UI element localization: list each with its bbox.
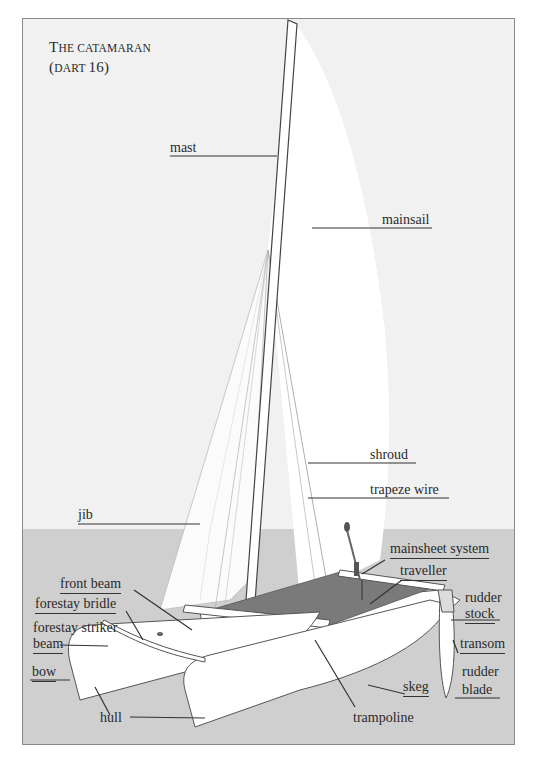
rudder-blade-shape xyxy=(439,598,454,698)
label-rudder-stock-line-2: stock xyxy=(465,606,495,624)
label-trampoline: trampoline xyxy=(353,710,414,726)
label-beam: beam xyxy=(33,636,63,654)
label-skeg: skeg xyxy=(403,679,429,697)
label-rudder-blade-line-1: rudder xyxy=(462,664,499,680)
label-mainsheet-system: mainsheet system xyxy=(390,541,489,559)
title-line-2: (dart 16) xyxy=(49,58,151,78)
label-mainsail: mainsail xyxy=(382,212,429,228)
label-bow: bow xyxy=(32,664,56,682)
diagram-title: The catamaran (dart 16) xyxy=(49,38,151,78)
label-jib: jib xyxy=(78,507,93,523)
label-hull: hull xyxy=(100,710,122,726)
catamaran-illustration xyxy=(0,0,535,777)
label-shroud: shroud xyxy=(370,447,408,463)
label-traveller: traveller xyxy=(400,563,447,581)
label-forestay-bridle: forestay bridle xyxy=(35,596,116,614)
label-forestay-striker: forestay striker xyxy=(33,620,117,636)
label-rudder-blade-line-2: blade xyxy=(462,682,492,698)
label-transom: transom xyxy=(460,636,505,654)
label-mast: mast xyxy=(170,140,196,156)
label-rudder-stock-line-1: rudder xyxy=(465,590,502,606)
label-trapeze-wire: trapeze wire xyxy=(370,482,439,498)
title-line-1: The catamaran xyxy=(49,38,151,58)
label-front-beam: front beam xyxy=(60,576,121,594)
